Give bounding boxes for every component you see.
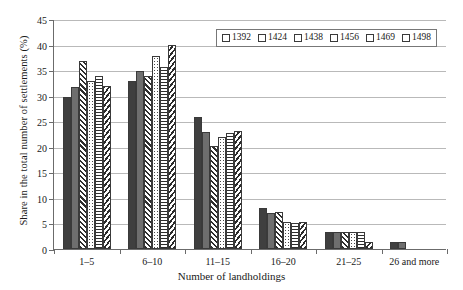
legend-swatch-icon — [366, 34, 374, 42]
bar — [299, 222, 307, 249]
y-axis-tick-label: 30 — [37, 91, 47, 102]
legend-label: 1456 — [340, 33, 359, 43]
bar — [194, 117, 202, 249]
legend-item: 1424 — [258, 33, 287, 43]
legend-swatch-icon — [330, 34, 338, 42]
bar — [325, 232, 333, 249]
bar — [103, 86, 111, 249]
bar — [95, 76, 103, 249]
bar-group — [120, 20, 186, 249]
bar-group — [316, 20, 382, 249]
legend-item: 1498 — [402, 33, 431, 43]
x-axis-tick-label: 11–15 — [205, 256, 230, 267]
chart-legend: 139214241438145614691498 — [216, 29, 437, 47]
legend-item: 1392 — [222, 33, 251, 43]
y-axis-tick-label: 45 — [37, 15, 47, 26]
legend-swatch-icon — [294, 34, 302, 42]
bar — [365, 242, 373, 249]
legend-item: 1469 — [366, 33, 395, 43]
x-axis-tick-label: 26 and more — [389, 256, 439, 267]
legend-label: 1469 — [376, 33, 395, 43]
bar — [398, 242, 406, 249]
y-axis-tick-label: 0 — [42, 245, 47, 256]
x-axis-tick-label: 1–5 — [79, 256, 94, 267]
bar — [234, 131, 242, 249]
bar — [349, 232, 357, 249]
legend-swatch-icon — [402, 34, 410, 42]
bar — [210, 146, 218, 249]
x-axis-tick-label: 21–25 — [336, 256, 361, 267]
legend-item: 1456 — [330, 33, 359, 43]
x-axis-tick — [54, 249, 55, 254]
plot-area: 0510152025303540451–56–1011–1516–2021–25… — [53, 20, 446, 250]
x-axis-tick — [120, 249, 121, 254]
bar — [341, 232, 349, 249]
bar — [160, 67, 168, 249]
legend-swatch-icon — [222, 34, 230, 42]
bar — [136, 71, 144, 249]
legend-item: 1438 — [294, 33, 323, 43]
legend-label: 1438 — [304, 33, 323, 43]
x-axis-tick — [447, 249, 448, 254]
legend-label: 1424 — [268, 33, 287, 43]
y-axis-tick-label: 40 — [37, 40, 47, 51]
x-axis-title: Number of landholdings — [0, 270, 463, 282]
bar — [79, 61, 87, 249]
bar — [71, 87, 79, 249]
bar — [259, 208, 267, 249]
bar — [333, 232, 341, 249]
y-axis-title: Share in the total number of settlements… — [18, 16, 29, 246]
bar-group — [382, 20, 448, 249]
bar — [291, 223, 299, 249]
x-axis-tick — [185, 249, 186, 254]
bar — [63, 97, 71, 249]
bar — [202, 132, 210, 249]
y-axis-tick-label: 20 — [37, 142, 47, 153]
legend-label: 1392 — [232, 33, 251, 43]
y-axis-tick-label: 5 — [42, 219, 47, 230]
bar — [218, 137, 226, 249]
bar — [168, 45, 176, 249]
x-axis-tick-label: 6–10 — [142, 256, 162, 267]
x-axis-tick — [316, 249, 317, 254]
bar — [87, 81, 95, 249]
bar — [390, 242, 398, 249]
bar — [144, 76, 152, 249]
chart-container: Share in the total number of settlements… — [0, 0, 463, 290]
y-axis-tick-label: 35 — [37, 66, 47, 77]
bar-group — [54, 20, 120, 249]
x-axis-tick — [251, 249, 252, 254]
bar — [275, 212, 283, 249]
x-axis-tick-label: 16–20 — [271, 256, 296, 267]
bar — [152, 56, 160, 249]
legend-label: 1498 — [412, 33, 431, 43]
bar — [283, 222, 291, 249]
bar — [267, 213, 275, 249]
y-axis-tick-label: 25 — [37, 117, 47, 128]
bar-group — [251, 20, 317, 249]
x-axis-tick — [382, 249, 383, 254]
y-axis-tick-label: 10 — [37, 193, 47, 204]
y-axis-tick-label: 15 — [37, 168, 47, 179]
legend-swatch-icon — [258, 34, 266, 42]
bar — [128, 81, 136, 249]
bar-group — [185, 20, 251, 249]
bar — [357, 232, 365, 249]
bar — [226, 133, 234, 249]
